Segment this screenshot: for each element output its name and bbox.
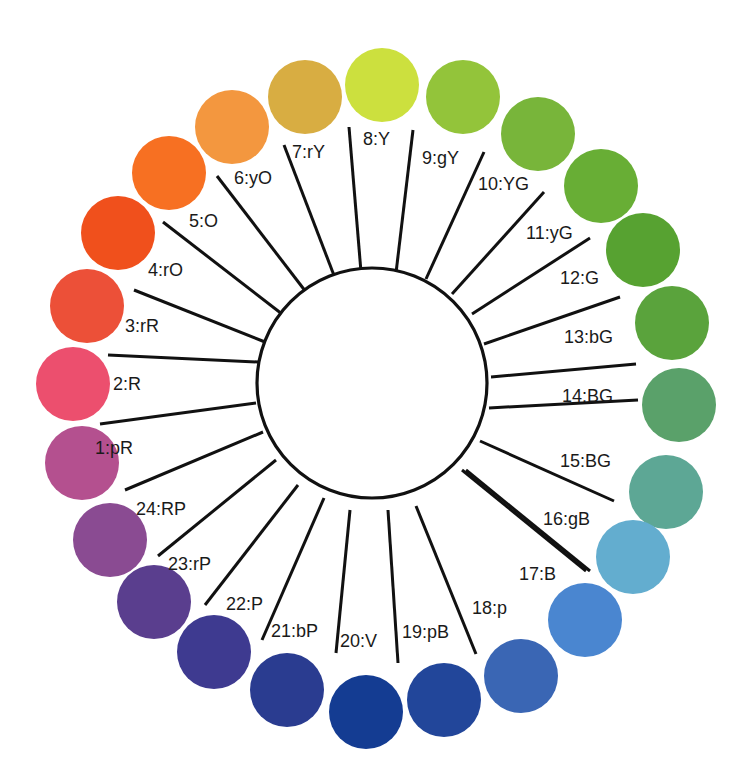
spoke-line bbox=[125, 432, 263, 490]
hue-swatch bbox=[132, 136, 206, 210]
hue-swatch bbox=[484, 639, 558, 713]
hue-swatch bbox=[50, 269, 124, 343]
spoke-line bbox=[388, 510, 398, 663]
hue-label: 11:yG bbox=[526, 223, 573, 243]
hue-swatch bbox=[250, 653, 324, 727]
hue-swatch bbox=[548, 583, 622, 657]
hue-label: 16:gB bbox=[543, 509, 590, 529]
hue-label: 18:p bbox=[472, 598, 507, 618]
hue-swatch bbox=[501, 97, 575, 171]
color-wheel-diagram: 1:pR2:R3:rR4:rO5:O6:yO7:rY8:Y9:gY10:YG11… bbox=[0, 0, 747, 775]
hue-label: 9:gY bbox=[422, 148, 459, 168]
hue-swatch bbox=[606, 213, 680, 287]
hue-swatch bbox=[564, 149, 638, 223]
center-hub-circle bbox=[257, 268, 487, 498]
hue-label: 2:R bbox=[113, 374, 141, 394]
hue-swatch bbox=[117, 565, 191, 639]
hue-label: 13:bG bbox=[564, 327, 613, 347]
hue-label: 3:rR bbox=[125, 316, 159, 336]
hue-swatch bbox=[642, 368, 716, 442]
spoke-line bbox=[100, 403, 256, 424]
spoke-line bbox=[349, 127, 361, 272]
hue-swatch bbox=[345, 48, 419, 122]
hue-swatch bbox=[407, 663, 481, 737]
hue-swatch bbox=[426, 60, 500, 134]
hue-label: 10:YG bbox=[478, 174, 529, 194]
spoke-line bbox=[108, 355, 258, 362]
spoke-line bbox=[480, 441, 614, 501]
hue-swatch bbox=[36, 347, 110, 421]
spoke-line bbox=[396, 130, 413, 273]
hue-swatch bbox=[195, 90, 269, 164]
hue-label: 23:rP bbox=[168, 554, 211, 574]
spoke-line bbox=[452, 192, 544, 294]
hue-label: 12:G bbox=[560, 268, 599, 288]
hue-label: 15:BG bbox=[560, 451, 611, 471]
hue-swatch bbox=[177, 615, 251, 689]
spoke-line bbox=[426, 152, 484, 279]
hue-swatch bbox=[268, 60, 342, 134]
hue-swatch bbox=[329, 675, 403, 749]
hue-swatch bbox=[629, 455, 703, 529]
hue-label: 4:rO bbox=[148, 260, 183, 280]
spoke-line bbox=[284, 145, 335, 278]
hue-label: 20:V bbox=[340, 631, 377, 651]
hue-label: 14:BG bbox=[562, 386, 613, 406]
hue-swatch bbox=[635, 286, 709, 360]
hue-label: 5:O bbox=[189, 211, 218, 231]
hue-label: 22:P bbox=[226, 594, 263, 614]
hue-label: 17:B bbox=[519, 564, 556, 584]
hue-label: 6:yO bbox=[234, 168, 272, 188]
hue-label: 1:pR bbox=[95, 438, 133, 458]
hue-label: 19:pB bbox=[402, 622, 449, 642]
spoke-line bbox=[491, 364, 636, 377]
hue-swatch bbox=[81, 196, 155, 270]
hue-label: 21:bP bbox=[271, 621, 318, 641]
hue-label: 24:RP bbox=[136, 499, 186, 519]
hue-label: 8:Y bbox=[363, 129, 390, 149]
hue-swatch bbox=[596, 520, 670, 594]
hue-label: 7:rY bbox=[292, 142, 325, 162]
